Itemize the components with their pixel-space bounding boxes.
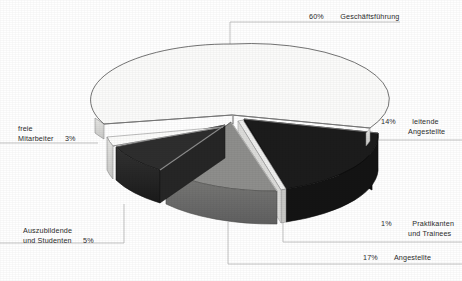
slice-label-leitende-angestellte: 14% leitende Angestellte bbox=[381, 117, 445, 137]
leader-line-geschaeftsfuehrung bbox=[230, 22, 400, 45]
slice-name-leitende-angestellte-line1: leitende bbox=[412, 117, 438, 126]
slice-percent-leitende-angestellte: 14% bbox=[381, 117, 401, 127]
slice-name-geschaeftsfuehrung: Geschäftsführung bbox=[340, 12, 399, 21]
slice-name-leitende-angestellte-line2: Angestellte bbox=[408, 127, 445, 136]
slice-percent-auszubildende-studenten: 5% bbox=[83, 236, 94, 246]
slice-name-praktikanten-trainees-line2: und Trainees bbox=[408, 229, 451, 238]
slice-name-angestellte: Angestellte bbox=[394, 253, 431, 262]
slice-name-praktikanten-trainees-line1: Praktikanten bbox=[412, 219, 454, 228]
slice-percent-freie-mitarbeiter: 3% bbox=[65, 134, 76, 144]
slice-label-praktikanten-trainees: 1% Praktikanten und Trainees bbox=[381, 219, 454, 239]
slice-label-geschaeftsfuehrung: 60% Geschäftsführung bbox=[309, 12, 399, 22]
slice-percent-geschaeftsfuehrung: 60% bbox=[309, 12, 329, 22]
slice-percent-praktikanten-trainees: 1% bbox=[381, 219, 401, 229]
slice-label-freie-mitarbeiter: freie Mitarbeiter 3% bbox=[18, 124, 76, 144]
slice-name-freie-mitarbeiter-line1: freie bbox=[18, 124, 33, 133]
slice-name-auszubildende-studenten-line1: Auszubildende bbox=[23, 226, 72, 235]
slice-percent-angestellte: 17% bbox=[363, 253, 383, 263]
slice-label-auszubildende-studenten: Auszubildende und Studenten 5% bbox=[23, 226, 94, 246]
slice-label-angestellte: 17% Angestellte bbox=[363, 253, 431, 263]
slice-name-auszubildende-studenten-line2: und Studenten bbox=[23, 236, 72, 245]
slice-name-freie-mitarbeiter-line2: Mitarbeiter bbox=[18, 134, 54, 143]
pie-chart: 60% Geschäftsführung 14% leitende Angest… bbox=[0, 0, 462, 281]
